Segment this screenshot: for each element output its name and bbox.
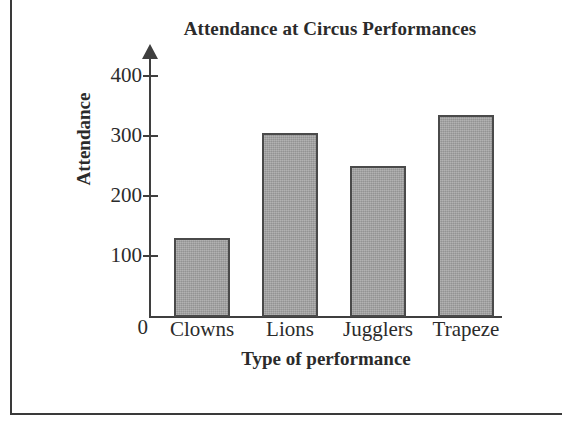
y-axis-tick-100 bbox=[143, 255, 158, 257]
x-axis-tick-label-trapeze: Trapeze bbox=[414, 318, 518, 341]
y-axis-tick-300 bbox=[143, 135, 158, 137]
bar-trapeze bbox=[438, 115, 494, 317]
y-axis-tick-label-100: 100 bbox=[90, 245, 142, 266]
y-axis-tick-label-200: 200 bbox=[90, 185, 142, 206]
bar-clowns bbox=[174, 238, 230, 317]
y-axis-tick-label-400: 400 bbox=[90, 65, 142, 86]
chart-title: Attendance at Circus Performances bbox=[120, 18, 540, 40]
y-axis-tick-200 bbox=[143, 195, 158, 197]
bar-lions bbox=[262, 133, 318, 317]
y-axis-line bbox=[149, 56, 151, 318]
x-axis-title: Type of performance bbox=[150, 348, 502, 370]
bar-jugglers bbox=[350, 166, 406, 317]
y-axis-origin-label: 0 bbox=[120, 316, 148, 338]
y-axis-tick-400 bbox=[143, 75, 158, 77]
bar-chart-figure: Attendance at Circus Performances Attend… bbox=[0, 0, 562, 430]
y-axis-tick-label-300: 300 bbox=[90, 125, 142, 146]
